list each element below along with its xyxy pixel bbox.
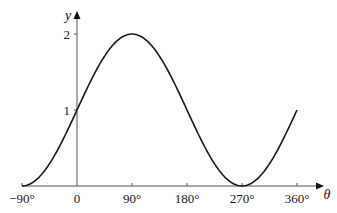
x-tick-label: 360° <box>285 191 310 206</box>
y-tick-label: 2 <box>64 27 71 42</box>
x-tick-label: 180° <box>175 191 200 206</box>
x-tick-label: 270° <box>230 191 255 206</box>
chart: −90°090°180°270°360°12yθ <box>0 0 337 213</box>
y-tick-label: 1 <box>64 103 71 118</box>
x-tick-label: 90° <box>123 191 141 206</box>
x-tick-label: −90° <box>9 191 35 206</box>
x-tick-label: 0 <box>74 191 81 206</box>
x-axis-label: θ <box>324 187 331 202</box>
tick-labels: −90°090°180°270°360°12yθ <box>9 8 330 206</box>
chart-svg: −90°090°180°270°360°12yθ <box>0 0 337 213</box>
y-axis-arrow-icon <box>74 11 81 19</box>
y-axis-label: y <box>63 8 72 23</box>
